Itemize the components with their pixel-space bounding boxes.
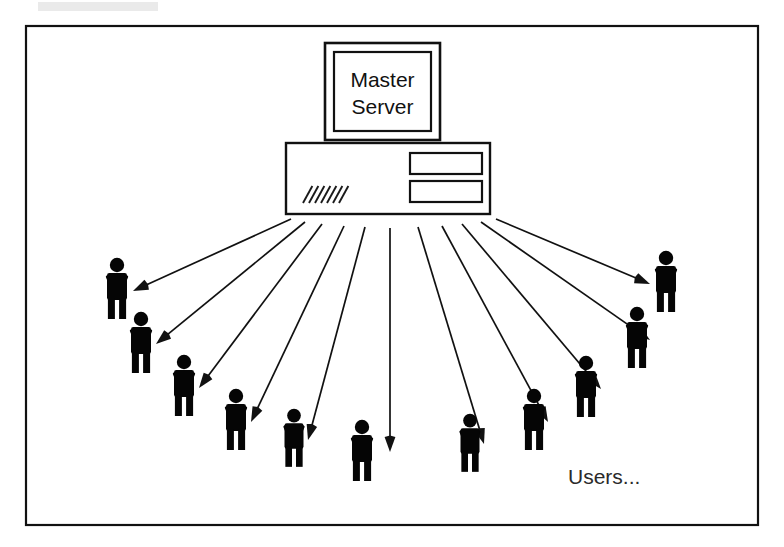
drive-bay-1 (410, 153, 482, 174)
person-leg-left (577, 396, 584, 417)
person-torso (174, 370, 194, 397)
person-torso (131, 327, 151, 354)
person-head (630, 307, 644, 321)
person-head (463, 414, 477, 428)
person-leg-right (536, 429, 543, 450)
master-server-label-line1: Master (350, 68, 414, 91)
person-leg-left (628, 347, 635, 368)
person-head (287, 409, 301, 423)
users-caption: Users... (568, 465, 640, 488)
person-torso (285, 423, 304, 449)
person-head (355, 420, 369, 434)
person-leg-left (227, 429, 234, 450)
person-torso (524, 404, 544, 431)
person-torso (352, 435, 372, 462)
monitor-screen (334, 52, 431, 131)
person-leg-left (285, 447, 292, 467)
person-leg-right (364, 460, 371, 481)
master-server-label-line2: Server (352, 95, 414, 118)
person-leg-right (472, 452, 479, 472)
person-leg-right (186, 395, 193, 416)
person-leg-left (461, 452, 468, 472)
person-leg-right (588, 396, 595, 417)
person-torso (226, 404, 246, 431)
person-leg-right (238, 429, 245, 450)
person-head (229, 389, 243, 403)
person-head (659, 251, 673, 265)
person-head (134, 312, 148, 326)
person-leg-left (108, 298, 115, 319)
person-head (527, 389, 541, 403)
diagram-root: Master Server Users... (0, 0, 784, 547)
network-diagram-canvas: Master Server Users... (0, 0, 784, 547)
person-head (110, 258, 124, 272)
person-head (177, 355, 191, 369)
person-leg-right (119, 298, 126, 319)
drive-bay-2 (410, 181, 482, 202)
person-leg-left (657, 291, 664, 312)
person-leg-left (525, 429, 532, 450)
person-torso (576, 371, 596, 398)
person-leg-left (175, 395, 182, 416)
person-head (579, 356, 593, 370)
person-leg-left (353, 460, 360, 481)
person-leg-right (668, 291, 675, 312)
person-leg-right (639, 347, 646, 368)
scan-artifact-smudge (38, 2, 158, 11)
person-leg-left (132, 352, 139, 373)
person-torso (627, 322, 647, 349)
person-torso (656, 266, 676, 293)
person-torso (461, 428, 480, 454)
person-torso (107, 273, 127, 300)
person-leg-right (296, 447, 303, 467)
person-leg-right (143, 352, 150, 373)
